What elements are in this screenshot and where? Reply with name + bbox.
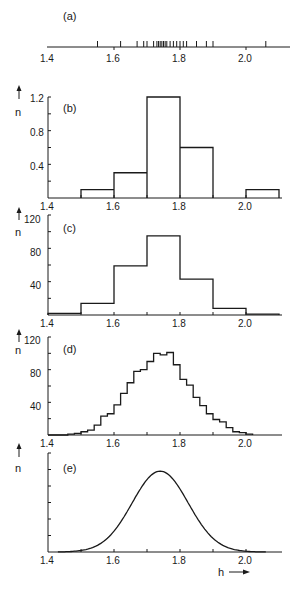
panel-d-histogram bbox=[48, 353, 253, 435]
arrow-right-icon bbox=[243, 570, 250, 575]
ytick-label: 0.4 bbox=[30, 161, 44, 172]
xtick-label: 2.0 bbox=[238, 438, 252, 449]
arrow-head-icon bbox=[17, 85, 22, 91]
xtick-label: 1.6 bbox=[106, 53, 120, 64]
panel-a: (a) 1.41.61.82.0 bbox=[40, 10, 290, 64]
panel-b: n (b) 1.2 0.8 0.4 1.41.61.82.0 bbox=[15, 85, 282, 212]
xtick-label: 2.0 bbox=[238, 53, 252, 64]
xtick-label: 1.4 bbox=[40, 201, 54, 212]
ytick-label: 40 bbox=[30, 280, 42, 291]
xtick-label: 1.4 bbox=[40, 555, 54, 566]
y-axis-label: n bbox=[15, 106, 21, 118]
xtick-label: 1.6 bbox=[106, 555, 120, 566]
panel-c-histogram bbox=[48, 236, 279, 315]
panel-e: n (e) 1.41.61.82.0 h bbox=[15, 443, 282, 578]
panel-a-label: (a) bbox=[63, 10, 76, 22]
panel-b-histogram bbox=[81, 97, 279, 198]
arrow-head-icon bbox=[17, 207, 22, 213]
ytick-label: 120 bbox=[24, 214, 41, 225]
ytick-label: 40 bbox=[30, 401, 42, 412]
xtick-label: 1.4 bbox=[40, 318, 54, 329]
y-axis-label: n bbox=[15, 462, 21, 474]
y-axis-label-e: n bbox=[15, 443, 22, 474]
panel-c-label: (c) bbox=[63, 222, 76, 234]
xtick-label: 1.8 bbox=[172, 318, 186, 329]
xtick-label: 1.8 bbox=[172, 555, 186, 566]
rug-ticks bbox=[98, 41, 266, 47]
y-axis-label-c: n bbox=[15, 207, 22, 238]
ytick-label: 0.8 bbox=[30, 127, 44, 138]
y-axis-label-d: n bbox=[15, 329, 22, 356]
ytick-label: 1.2 bbox=[30, 93, 44, 104]
y-axis-label: n bbox=[15, 344, 21, 356]
x-axis-label: h bbox=[218, 566, 224, 578]
xtick-label: 1.4 bbox=[40, 438, 54, 449]
arrow-head-icon bbox=[17, 329, 22, 335]
ytick-label: 120 bbox=[24, 335, 41, 346]
xtick-label: 1.4 bbox=[40, 53, 54, 64]
panel-e-density-curve bbox=[58, 471, 266, 552]
ytick-label: 80 bbox=[30, 368, 42, 379]
panel-a-x-ticks: 1.41.61.82.0 bbox=[40, 47, 252, 64]
xtick-label: 2.0 bbox=[238, 318, 252, 329]
panel-d: n (d) 120 80 40 1.41.61.82.0 bbox=[15, 329, 282, 449]
y-axis-label: n bbox=[15, 226, 21, 238]
xtick-label: 1.8 bbox=[172, 438, 186, 449]
arrow-head-icon bbox=[17, 443, 22, 449]
xtick-label: 1.8 bbox=[172, 201, 186, 212]
panel-d-label: (d) bbox=[63, 343, 76, 355]
panel-b-label: (b) bbox=[63, 102, 76, 114]
xtick-label: 2.0 bbox=[238, 555, 252, 566]
xtick-label: 1.6 bbox=[106, 438, 120, 449]
ytick-label: 80 bbox=[30, 247, 42, 258]
xtick-label: 1.8 bbox=[172, 53, 186, 64]
panel-e-label: (e) bbox=[63, 462, 76, 474]
panel-c: n (c) 120 80 40 1.41.61.82.0 bbox=[15, 207, 282, 329]
y-axis-label-b: n bbox=[15, 85, 22, 118]
x-axis-label-e: h bbox=[218, 566, 250, 578]
figure: (a) 1.41.61.82.0 n (b) 1.2 0.8 0.4 1.41.… bbox=[0, 0, 307, 589]
xtick-label: 2.0 bbox=[238, 201, 252, 212]
xtick-label: 1.6 bbox=[106, 318, 120, 329]
xtick-label: 1.6 bbox=[106, 201, 120, 212]
